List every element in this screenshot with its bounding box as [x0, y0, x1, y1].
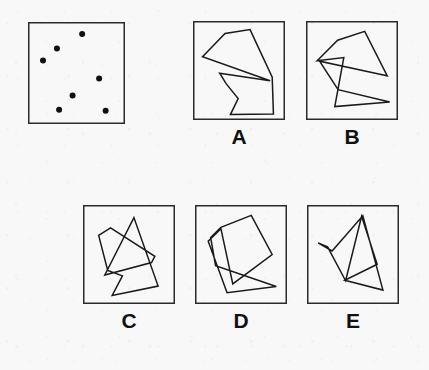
reference-dot-pattern-frame	[29, 23, 125, 124]
option-label-d[interactable]: D	[195, 310, 287, 331]
reference-dot-2	[54, 46, 60, 52]
option-b[interactable]	[306, 21, 398, 120]
reference-dot-pattern[interactable]	[28, 22, 125, 124]
option-c-figure-path	[99, 218, 158, 296]
option-e-figure-path	[318, 216, 383, 290]
option-label-e[interactable]: E	[307, 310, 399, 331]
option-a[interactable]	[193, 21, 285, 120]
option-d[interactable]	[195, 205, 287, 304]
option-c-frame	[84, 206, 175, 304]
option-label-a[interactable]: A	[193, 126, 285, 147]
option-e-canvas	[307, 205, 399, 304]
option-a-frame	[194, 22, 285, 120]
option-label-c[interactable]: C	[83, 310, 175, 331]
option-d-canvas	[195, 205, 287, 304]
reference-dot-3	[40, 58, 46, 64]
option-label-b[interactable]: B	[306, 126, 398, 147]
option-b-canvas	[306, 21, 398, 120]
option-c-canvas	[83, 205, 175, 304]
reference-dot-1	[79, 31, 85, 37]
option-c[interactable]	[83, 205, 175, 304]
reference-dot-pattern-canvas	[28, 22, 125, 124]
option-e-frame	[308, 206, 399, 304]
option-a-figure-path	[203, 30, 274, 115]
option-b-figure-path	[317, 31, 390, 106]
reference-dot-5	[70, 93, 76, 99]
reference-dot-7	[103, 108, 109, 114]
reference-dot-6	[56, 107, 62, 113]
option-a-canvas	[193, 21, 285, 120]
option-e[interactable]	[307, 205, 399, 304]
option-d-figure-path	[208, 215, 276, 292]
reference-dot-4	[96, 76, 102, 82]
